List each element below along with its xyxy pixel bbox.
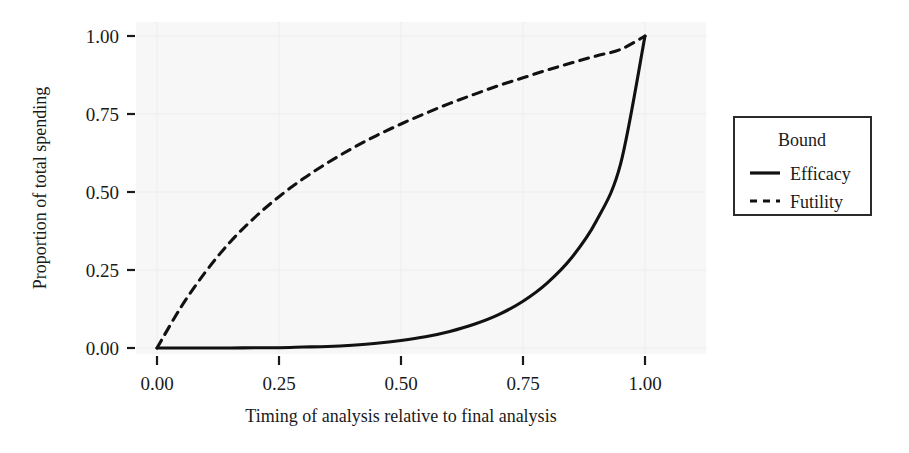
y-axis-tick-labels: 1.00 0.75 0.50 0.25 0.00 (86, 26, 119, 359)
x-tick-label: 0.50 (384, 373, 417, 394)
x-axis-tick-labels: 0.00 0.25 0.50 0.75 1.00 (140, 373, 661, 394)
legend-label-efficacy[interactable]: Efficacy (790, 164, 851, 184)
x-axis-title: Timing of analysis relative to final ana… (245, 406, 556, 426)
x-axis-ticks (157, 356, 645, 365)
legend-title: Bound (778, 130, 826, 150)
y-tick-label: 0.00 (86, 338, 119, 359)
plot-panel-background (136, 22, 706, 354)
spending-function-plot: 1.00 0.75 0.50 0.25 0.00 Proportion of t… (0, 0, 909, 453)
y-axis-title: Proportion of total spending (30, 87, 50, 289)
x-tick-label: 0.75 (506, 373, 539, 394)
y-axis-ticks (127, 36, 135, 348)
y-tick-label: 1.00 (86, 26, 119, 47)
x-tick-label: 0.25 (262, 373, 295, 394)
legend: Bound Efficacy Futility (734, 117, 871, 215)
y-tick-label: 0.25 (86, 260, 119, 281)
y-tick-label: 0.75 (86, 104, 119, 125)
y-tick-label: 0.50 (86, 182, 119, 203)
chart-figure: 1.00 0.75 0.50 0.25 0.00 Proportion of t… (0, 0, 909, 453)
x-tick-label: 0.00 (140, 373, 173, 394)
legend-label-futility[interactable]: Futility (790, 192, 843, 212)
x-tick-label: 1.00 (628, 373, 661, 394)
